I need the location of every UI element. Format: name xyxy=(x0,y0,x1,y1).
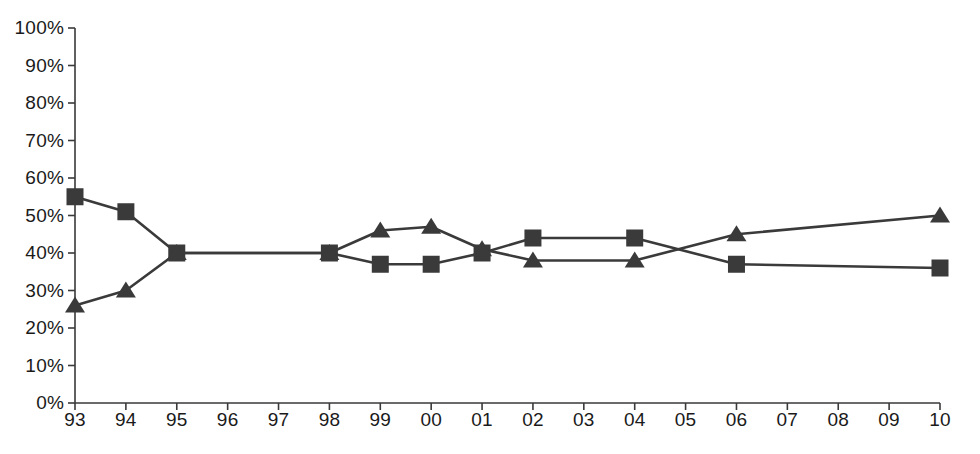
x-tick-label: 01 xyxy=(471,409,493,431)
x-tick-label: 04 xyxy=(624,409,646,431)
x-tick-label: 00 xyxy=(420,409,442,431)
x-tick-label: 95 xyxy=(166,409,188,431)
x-tick-label: 06 xyxy=(726,409,748,431)
x-tick-label: 97 xyxy=(268,409,290,431)
x-tick-label: 08 xyxy=(827,409,849,431)
x-tick-label: 02 xyxy=(522,409,544,431)
line-chart: 100% 90% 80% 70% 60% 50% 40% 30% 20% 10%… xyxy=(0,0,980,454)
data-point-square xyxy=(932,260,949,277)
x-tick-label: 98 xyxy=(319,409,341,431)
x-tick-label: 09 xyxy=(878,409,900,431)
x-tick-label: 10 xyxy=(929,409,951,431)
x-tick-label: 94 xyxy=(115,409,137,431)
data-point-square xyxy=(67,188,84,205)
data-point-square xyxy=(423,256,440,273)
series-layer xyxy=(65,188,950,312)
axis-frame xyxy=(68,28,940,410)
x-tick-label: 03 xyxy=(573,409,595,431)
x-tick-label: 05 xyxy=(675,409,697,431)
data-point-square xyxy=(728,256,745,273)
data-point-square xyxy=(524,230,541,247)
data-point-square xyxy=(117,203,134,220)
x-tick-label: 07 xyxy=(777,409,799,431)
data-point-square xyxy=(372,256,389,273)
x-tick-label: 93 xyxy=(64,409,86,431)
data-point-triangle xyxy=(421,218,441,234)
data-point-triangle xyxy=(930,207,950,223)
plot-area xyxy=(0,0,980,454)
x-tick-label: 96 xyxy=(217,409,239,431)
data-point-square xyxy=(626,230,643,247)
x-tick-label: 99 xyxy=(370,409,392,431)
